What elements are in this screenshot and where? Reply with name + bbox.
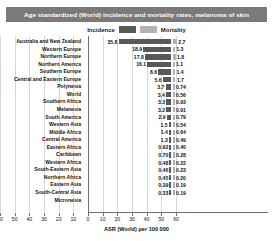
incidence-cell: 0.70 xyxy=(84,151,172,159)
mortality-cell: 0.22 xyxy=(172,159,269,167)
category-label: World xyxy=(0,91,84,98)
x-tick-label: 10 xyxy=(100,216,106,222)
chart-title-bar: Age standardized (World) incidence and m… xyxy=(6,7,267,22)
mortality-value: 0.20 xyxy=(176,175,186,181)
incidence-value: 0.46 xyxy=(158,167,168,173)
plot-area: Australia and New Zealand35.82.7Western … xyxy=(0,36,273,214)
incidence-value: 8.6 xyxy=(150,69,157,75)
category-label: Australia and New Zealand xyxy=(0,38,84,45)
incidence-bar xyxy=(169,167,171,172)
mortality-cell: 0.20 xyxy=(172,174,269,182)
incidence-bar xyxy=(169,137,171,142)
x-tick-mark xyxy=(73,213,74,216)
x-tick-label: 20 xyxy=(56,216,62,222)
mortality-cell: 0.64 xyxy=(172,129,269,137)
incidence-cell: 2.9 xyxy=(84,113,172,121)
mortality-cell: 1.7 xyxy=(172,76,269,84)
legend-swatch-mortality xyxy=(140,26,157,33)
mortality-cell: 0.79 xyxy=(172,113,269,121)
incidence-bar xyxy=(119,39,172,44)
incidence-bar xyxy=(167,115,171,120)
x-tick-label: 0 xyxy=(87,216,90,222)
x-tick-mark xyxy=(44,213,45,216)
mortality-cell: 0.19 xyxy=(172,181,269,189)
category-label: Northern America xyxy=(0,61,84,68)
incidence-value: 0.45 xyxy=(158,175,168,181)
mortality-bar xyxy=(173,152,175,157)
x-tick-label: 40 xyxy=(144,216,150,222)
chart-row: Northern America16.11.1 xyxy=(0,61,273,69)
mortality-value: 0.28 xyxy=(176,152,186,158)
chart-row: Eastern Asia0.390.19 xyxy=(0,181,273,189)
incidence-bar xyxy=(166,99,171,104)
incidence-value: 0.92 xyxy=(158,144,168,150)
chart-row: Caribbean0.700.28 xyxy=(0,151,273,159)
chart-row: Southern Africa3.30.93 xyxy=(0,98,273,106)
incidence-value: 35.8 xyxy=(107,39,117,45)
incidence-cell xyxy=(84,196,172,204)
incidence-bar xyxy=(147,62,171,67)
category-label: South-Eastern Asia xyxy=(0,166,84,173)
category-label: Micronesia xyxy=(0,197,84,204)
mortality-cell: 1.3 xyxy=(172,46,269,54)
x-tick-mark xyxy=(15,213,16,216)
category-label: Eastern Asia xyxy=(0,181,84,188)
incidence-cell: 3.4 xyxy=(84,91,172,99)
x-tick-mark xyxy=(59,213,60,216)
incidence-bar xyxy=(166,84,171,89)
mortality-bar xyxy=(173,122,175,127)
chart-row: Northern Europe17.81.8 xyxy=(0,53,273,61)
mortality-cell: 2.7 xyxy=(172,38,269,46)
mortality-bar xyxy=(173,99,175,104)
incidence-cell: 0.39 xyxy=(84,181,172,189)
x-tick-mark xyxy=(103,213,104,216)
chart-row: Middle Africa1.40.64 xyxy=(0,129,273,137)
category-label: Middle Africa xyxy=(0,129,84,136)
incidence-bar xyxy=(166,92,171,97)
legend-swatch-incidence xyxy=(119,26,136,33)
mortality-cell: 1.8 xyxy=(172,53,269,61)
mortality-bar xyxy=(173,182,175,187)
incidence-cell: 3.3 xyxy=(84,98,172,106)
chart-row: South-Eastern Asia0.460.23 xyxy=(0,166,273,174)
mortality-value: 0.91 xyxy=(176,107,186,113)
mortality-bar xyxy=(173,107,175,112)
incidence-bar xyxy=(163,77,171,82)
incidence-cell: 35.8 xyxy=(84,38,172,46)
mortality-bar xyxy=(173,137,175,142)
incidence-value: 3.7 xyxy=(157,84,164,90)
mortality-value: 1.7 xyxy=(177,77,184,83)
incidence-bar xyxy=(143,47,171,52)
mortality-value: 2.7 xyxy=(178,39,185,45)
incidence-cell: 3.2 xyxy=(84,106,172,114)
incidence-bar xyxy=(166,107,171,112)
category-label: Central and Eastern Europe xyxy=(0,76,84,83)
category-label: Western Europe xyxy=(0,46,84,53)
x-tick-mark xyxy=(117,213,118,216)
legend-label-incidence: Incidence xyxy=(87,27,115,33)
chart-row: Polynesia3.70.74 xyxy=(0,83,273,91)
x-tick-label: 60 xyxy=(173,216,179,222)
mortality-value: 0.74 xyxy=(176,84,186,90)
incidence-value: 5.6 xyxy=(155,77,162,83)
chart-row: Central and Eastern Europe5.61.7 xyxy=(0,76,273,84)
incidence-value: 0.33 xyxy=(158,190,168,196)
chart-row: Southern Europe8.61.4 xyxy=(0,68,273,76)
mortality-bar xyxy=(173,167,175,172)
mortality-bar xyxy=(173,115,175,120)
x-tick-label: 30 xyxy=(129,216,135,222)
incidence-cell: 17.8 xyxy=(84,53,172,61)
mortality-value: 1.4 xyxy=(176,69,183,75)
incidence-value: 17.8 xyxy=(134,54,144,60)
x-tick-mark xyxy=(88,213,89,216)
mortality-cell: 0.54 xyxy=(172,121,269,129)
incidence-bar xyxy=(169,190,171,195)
mortality-value: 0.19 xyxy=(176,182,186,188)
incidence-value: 1.4 xyxy=(161,129,168,135)
mortality-value: 0.40 xyxy=(176,144,186,150)
mortality-cell: 0.93 xyxy=(172,98,269,106)
category-label: Southern Africa xyxy=(0,98,84,105)
mortality-bar xyxy=(173,130,175,135)
x-tick-label: 10 xyxy=(70,216,76,222)
incidence-value: 0.39 xyxy=(158,182,168,188)
